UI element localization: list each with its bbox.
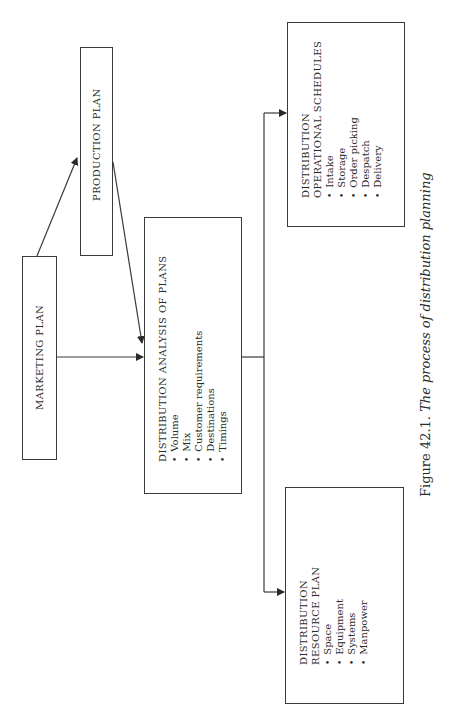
marketing-plan-label: MARKETING PLAN — [34, 305, 46, 410]
resource-plan-title-1: DISTRIBUTION — [298, 566, 310, 665]
resource-plan-box: DISTRIBUTION RESOURCE PLAN Space Equipme… — [285, 487, 404, 704]
distribution-analysis-title: DISTRIBUTION ANALYSIS OF PLANS — [157, 255, 169, 462]
operational-schedules-content: DISTRIBUTION OPERATIONAL SCHEDULES Intak… — [300, 41, 384, 198]
list-item: Delivery — [372, 41, 384, 198]
list-item: Destinations — [205, 255, 217, 462]
arrow-production-to-analysis — [113, 162, 142, 343]
list-item: Manpower — [358, 566, 370, 665]
resource-plan-title-2: RESOURCE PLAN — [310, 566, 322, 665]
operational-schedules-box: DISTRIBUTION OPERATIONAL SCHEDULES Intak… — [287, 22, 405, 227]
list-item: Space — [322, 566, 334, 665]
production-plan-label: PRODUCTION PLAN — [91, 88, 103, 201]
figure-title: The process of distribution planning — [418, 172, 433, 411]
list-item: Order picking — [348, 41, 360, 198]
arrow-marketing-to-production — [37, 158, 77, 256]
list-item: Mix — [181, 255, 193, 462]
operational-schedules-title-2: OPERATIONAL SCHEDULES — [312, 41, 324, 198]
operational-schedules-title-1: DISTRIBUTION — [300, 41, 312, 198]
list-item: Intake — [324, 41, 336, 198]
distribution-analysis-box: DISTRIBUTION ANALYSIS OF PLANS Volume Mi… — [144, 217, 242, 494]
figure-caption: Figure 42.1. The process of distribution… — [418, 172, 434, 497]
list-item: Systems — [346, 566, 358, 665]
list-item: Despatch — [360, 41, 372, 198]
list-item: Customer requirements — [193, 255, 205, 462]
production-plan-box: PRODUCTION PLAN — [80, 47, 113, 256]
list-item: Storage — [336, 41, 348, 198]
list-item: Equipment — [334, 566, 346, 665]
resource-plan-content: DISTRIBUTION RESOURCE PLAN Space Equipme… — [298, 566, 370, 665]
list-item: Timings — [217, 255, 229, 462]
distribution-analysis-content: DISTRIBUTION ANALYSIS OF PLANS Volume Mi… — [157, 255, 229, 462]
list-item: Volume — [169, 255, 181, 462]
figure-number: Figure 42.1. — [418, 416, 433, 497]
marketing-plan-box: MARKETING PLAN — [22, 256, 57, 460]
